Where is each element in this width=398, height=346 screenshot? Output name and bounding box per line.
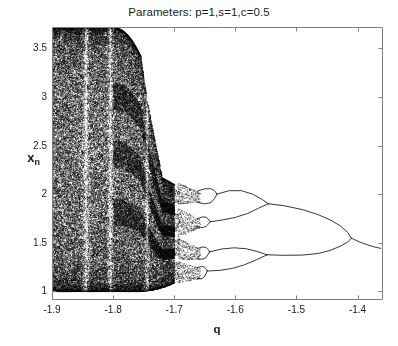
x-axis-label: q bbox=[52, 323, 382, 335]
y-axis-label-base: x bbox=[27, 150, 34, 165]
x-tick-label: -1.5 bbox=[279, 304, 313, 315]
x-tick-label: -1.4 bbox=[341, 304, 375, 315]
x-tick-label: -1.7 bbox=[157, 304, 191, 315]
x-tick-label: -1.8 bbox=[96, 304, 130, 315]
y-tick-label: 3.5 bbox=[19, 42, 47, 53]
x-tick-label: -1.6 bbox=[218, 304, 252, 315]
y-axis-label: xn bbox=[0, 150, 40, 167]
bifurcation-plot-canvas bbox=[0, 0, 398, 346]
y-tick-label: 2 bbox=[19, 188, 47, 199]
y-tick-label: 3 bbox=[19, 91, 47, 102]
y-tick-label: 1.5 bbox=[19, 237, 47, 248]
y-tick-label: 1 bbox=[19, 285, 47, 296]
x-tick-label: -1.9 bbox=[35, 304, 69, 315]
y-axis-label-subscript: n bbox=[35, 157, 41, 167]
y-tick-label: 2.5 bbox=[19, 140, 47, 151]
figure-container: Parameters: p=1,s=1,c=0.5 xn q 11.522.53… bbox=[0, 0, 398, 346]
